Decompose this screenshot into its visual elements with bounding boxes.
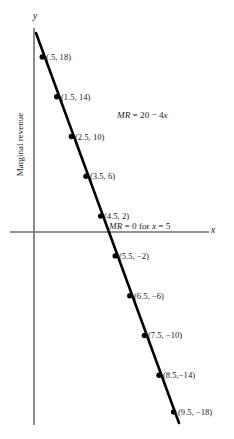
data-point <box>54 94 59 99</box>
data-point <box>127 293 132 298</box>
marginal-revenue-figure: y x Marginal revenue MR = 20 − 4x MR = 0… <box>0 0 234 439</box>
data-point <box>171 409 176 414</box>
point-label: (3.5, 6) <box>90 172 115 181</box>
data-point <box>113 253 118 258</box>
y-axis-title: Marginal revenue <box>16 89 25 201</box>
zero-prefix: MR <box>109 221 122 231</box>
point-label: (6.5, −6) <box>134 292 164 301</box>
equation-variable: x <box>164 110 168 120</box>
data-point <box>142 333 147 338</box>
point-label: (1.5, 14) <box>61 93 90 102</box>
point-label: (5.5, −2) <box>119 252 149 261</box>
data-point <box>156 373 161 378</box>
x-axis-label: x <box>211 226 215 236</box>
data-point <box>98 213 103 218</box>
point-label: (9.5, −18) <box>178 408 212 417</box>
point-label: (2.5, 10) <box>75 133 104 142</box>
data-point <box>83 174 88 179</box>
zero-body: = 0 for <box>122 221 152 231</box>
zero-value: = 5 <box>156 221 170 231</box>
equation-body: = 20 − 4 <box>130 110 163 120</box>
equation-annotation: MR = 20 − 4x <box>117 111 168 120</box>
data-point <box>40 54 45 59</box>
point-label: (8.5,−14) <box>163 371 195 380</box>
equation-prefix: MR <box>117 110 130 120</box>
zero-annotation: MR = 0 for x = 5 <box>109 222 170 231</box>
data-point <box>69 134 74 139</box>
y-axis-label: y <box>33 12 37 22</box>
point-label: (.5, 18) <box>46 53 71 62</box>
point-label: (4.5, 2) <box>104 212 129 221</box>
point-label: (7.5, −10) <box>148 331 182 340</box>
